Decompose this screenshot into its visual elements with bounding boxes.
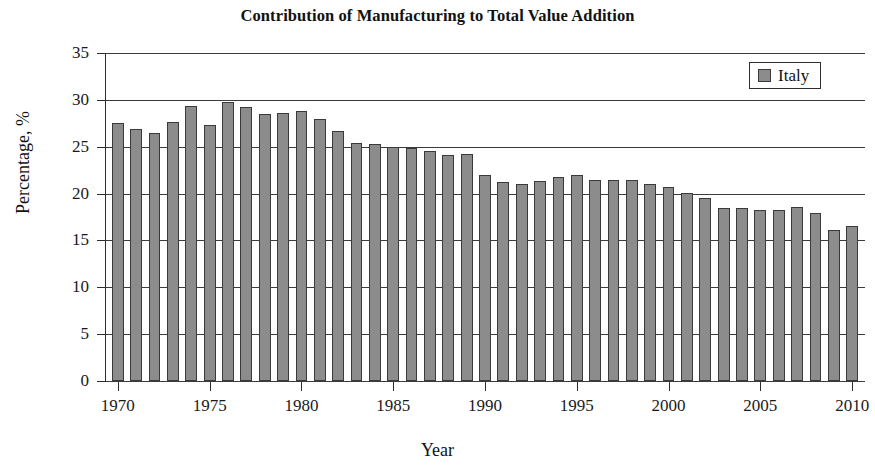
bar-1988 — [442, 155, 454, 381]
x-tick-mark-1975 — [210, 382, 211, 391]
bar-1998 — [626, 180, 638, 381]
bar-1992 — [516, 184, 528, 381]
legend-swatch-italy — [758, 69, 771, 82]
x-tick-label-1980: 1980 — [266, 396, 336, 415]
x-tick-mark-2000 — [669, 382, 670, 391]
bar-1995 — [571, 175, 583, 381]
x-tick-label-1995: 1995 — [542, 396, 612, 415]
chart-figure: Contribution of Manufacturing to Total V… — [0, 0, 875, 476]
bar-2005 — [754, 210, 766, 381]
legend-label-italy: Italy — [778, 67, 809, 84]
x-tick-mark-1990 — [485, 382, 486, 391]
y-tick-mark-0 — [97, 381, 106, 382]
bar-1999 — [644, 184, 656, 381]
bar-series-italy — [105, 53, 865, 381]
x-tick-mark-1995 — [577, 382, 578, 391]
bar-2002 — [699, 198, 711, 381]
x-tick-label-1970: 1970 — [83, 396, 153, 415]
x-tick-label-2010: 2010 — [817, 396, 875, 415]
bar-1978 — [259, 114, 271, 381]
bar-2009 — [828, 230, 840, 381]
bar-1976 — [222, 102, 234, 381]
bar-1979 — [277, 113, 289, 381]
bar-1971 — [130, 129, 142, 381]
bar-1987 — [424, 151, 436, 381]
x-tick-label-2005: 2005 — [725, 396, 795, 415]
x-tick-label-1990: 1990 — [450, 396, 520, 415]
y-tick-mark-35 — [97, 53, 106, 54]
bar-1985 — [387, 147, 399, 381]
bar-1970 — [112, 123, 124, 381]
y-tick-label-20: 20 — [43, 185, 89, 202]
bar-2006 — [773, 210, 785, 381]
y-tick-mark-15 — [97, 240, 106, 241]
bar-1984 — [369, 144, 381, 381]
x-tick-label-1975: 1975 — [175, 396, 245, 415]
y-tick-label-30: 30 — [43, 91, 89, 108]
bar-1973 — [167, 122, 179, 381]
x-tick-mark-1985 — [393, 382, 394, 391]
bar-2010 — [846, 226, 858, 381]
bar-1974 — [185, 106, 197, 381]
bar-1991 — [497, 182, 509, 381]
bar-1986 — [406, 148, 418, 381]
x-tick-label-1985: 1985 — [358, 396, 428, 415]
chart-legend: Italy — [749, 62, 821, 89]
y-axis-title: Percentage, % — [13, 48, 34, 278]
bar-1990 — [479, 175, 491, 381]
y-tick-label-0: 0 — [43, 372, 89, 389]
bar-1983 — [351, 143, 363, 381]
x-tick-mark-2005 — [760, 382, 761, 391]
chart-title: Contribution of Manufacturing to Total V… — [0, 6, 875, 26]
bar-2004 — [736, 208, 748, 381]
bar-1972 — [149, 133, 161, 381]
x-axis-title: Year — [0, 440, 875, 461]
bar-1980 — [296, 111, 308, 381]
y-tick-label-35: 35 — [43, 44, 89, 61]
y-tick-label-15: 15 — [43, 231, 89, 248]
bar-1997 — [608, 180, 620, 381]
y-tick-mark-25 — [97, 147, 106, 148]
y-tick-mark-30 — [97, 100, 106, 101]
x-tick-label-2000: 2000 — [634, 396, 704, 415]
x-tick-mark-1970 — [118, 382, 119, 391]
bar-2008 — [810, 213, 822, 381]
bar-1993 — [534, 181, 546, 381]
bar-1989 — [461, 154, 473, 381]
bar-2000 — [663, 187, 675, 381]
bar-2003 — [718, 208, 730, 381]
y-tick-mark-20 — [97, 194, 106, 195]
y-tick-label-25: 25 — [43, 138, 89, 155]
y-tick-mark-10 — [97, 287, 106, 288]
bar-1996 — [589, 180, 601, 381]
bar-1982 — [332, 131, 344, 381]
bar-1994 — [553, 177, 565, 381]
bar-1975 — [204, 125, 216, 381]
x-tick-mark-2010 — [852, 382, 853, 391]
bar-2001 — [681, 193, 693, 381]
bar-2007 — [791, 207, 803, 381]
y-tick-label-10: 10 — [43, 278, 89, 295]
x-tick-mark-1980 — [301, 382, 302, 391]
plot-area — [105, 53, 865, 381]
y-tick-mark-5 — [97, 334, 106, 335]
bar-1981 — [314, 119, 326, 381]
y-tick-label-5: 5 — [43, 325, 89, 342]
bar-1977 — [240, 107, 252, 381]
